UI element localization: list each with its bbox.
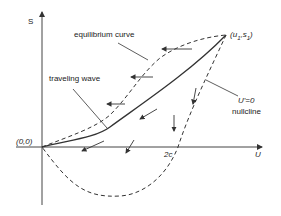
traveling-wave-label: traveling wave <box>49 75 100 83</box>
x-axis-label: U <box>255 151 261 159</box>
equilibrium-curve-label: equilibrium curve <box>74 31 134 39</box>
flow-arrow <box>82 141 104 151</box>
origin-label: (0,0) <box>16 138 32 146</box>
flow-arrow <box>140 109 157 119</box>
nullcline-curve <box>42 35 226 196</box>
y-axis-label: S <box>28 18 33 26</box>
x-tick-2c: 2c <box>164 151 172 159</box>
nullcline-equation-label: U'=0 <box>238 97 254 105</box>
point-label: (u1,s1) <box>230 31 253 41</box>
nullcline-label: nullcline <box>232 108 261 116</box>
